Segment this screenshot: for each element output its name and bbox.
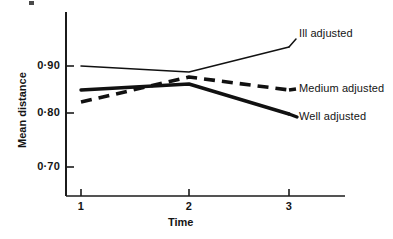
x-tick-label-3: 3 [275, 200, 303, 212]
line-chart-figure: 0·90 0·80 0·70 1 2 3 Mean distance Time … [0, 0, 393, 239]
series-leader-well-adjusted [289, 114, 297, 117]
y-tick-label-0-70: 0·70 [26, 160, 60, 172]
series-label-ill-adjusted: Ill adjusted [299, 27, 353, 39]
y-tick-label-0-80: 0·80 [26, 106, 60, 118]
series-label-medium-adjusted: Medium adjusted [299, 82, 384, 94]
x-tick-label-1: 1 [67, 200, 95, 212]
series-leader-ill-adjusted [289, 39, 296, 47]
x-axis-title: Time [168, 216, 193, 228]
series-label-well-adjusted: Well adjusted [299, 110, 366, 122]
series-line-well-adjusted [81, 84, 289, 114]
series-leader-medium-adjusted [289, 89, 296, 90]
x-tick-label-2: 2 [175, 200, 203, 212]
y-tick-label-0-90: 0·90 [26, 59, 60, 71]
series-line-ill-adjusted [81, 47, 289, 72]
y-axis-title: Mean distance [16, 72, 28, 148]
